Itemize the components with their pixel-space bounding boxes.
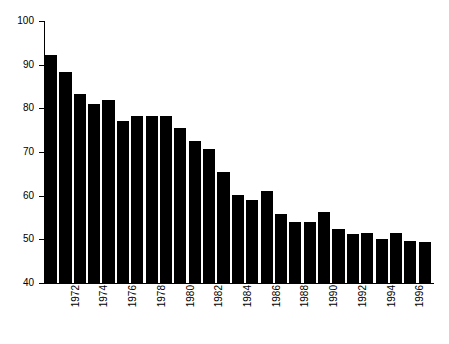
y-tick-label: 80: [0, 103, 34, 113]
bar: [361, 233, 373, 283]
bar: [275, 214, 287, 283]
bar: [88, 104, 100, 283]
x-tick-label: 1986: [272, 285, 282, 307]
x-tick-label: 1988: [300, 285, 310, 307]
bar: [404, 241, 416, 283]
y-tick-label: 60: [0, 191, 34, 201]
y-tick-label: 90: [0, 60, 34, 70]
x-tick-label: 1978: [157, 285, 167, 307]
y-tick-mark: [39, 283, 45, 284]
x-axis-line: [44, 283, 434, 284]
x-tick-label: 1972: [71, 285, 81, 307]
bar: [347, 234, 359, 283]
y-tick-label: 100: [0, 16, 34, 26]
y-tick-label: 50: [0, 234, 34, 244]
bar: [232, 195, 244, 283]
x-tick-label: 1990: [329, 285, 339, 307]
bar: [332, 229, 344, 283]
bar-chart: 405060708090100 197219741976197819801982…: [0, 0, 449, 344]
bar-series: [45, 21, 433, 283]
bar: [318, 212, 330, 283]
bar: [102, 100, 114, 283]
y-tick-label: 40: [0, 278, 34, 288]
bar: [146, 116, 158, 283]
x-tick-label: 1996: [415, 285, 425, 307]
bar: [390, 233, 402, 283]
bar: [289, 222, 301, 283]
bar: [189, 141, 201, 283]
bar: [174, 128, 186, 283]
x-tick-label: 1984: [243, 285, 253, 307]
x-axis-labels: 1972197419761978198019821984198619881990…: [45, 285, 433, 344]
bar: [160, 116, 172, 283]
x-tick-label: 1982: [214, 285, 224, 307]
x-tick-label: 1992: [358, 285, 368, 307]
bar: [203, 149, 215, 283]
bar: [59, 72, 71, 283]
bar: [419, 242, 431, 283]
bar: [117, 121, 129, 283]
bar: [45, 55, 57, 283]
bar: [246, 200, 258, 283]
y-tick-label: 70: [0, 147, 34, 157]
bar: [376, 239, 388, 283]
x-tick-label: 1994: [387, 285, 397, 307]
x-tick-label: 1976: [128, 285, 138, 307]
bar: [304, 222, 316, 283]
bar: [74, 94, 86, 283]
x-tick-label: 1974: [99, 285, 109, 307]
bar: [217, 172, 229, 283]
bar: [261, 191, 273, 283]
x-tick-label: 1980: [186, 285, 196, 307]
bar: [131, 116, 143, 283]
